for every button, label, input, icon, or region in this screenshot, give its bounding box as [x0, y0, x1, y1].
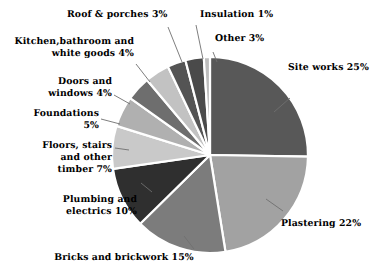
slice-label-plumbing-line1: Plumbing and — [0, 194, 137, 206]
slice-label-kitchen-line2: white goods 4% — [0, 48, 134, 60]
slice-label-foundations-line2: 5% — [0, 120, 99, 132]
pie-slices-group — [112, 57, 308, 253]
slice-label-site-works: Site works 25% — [288, 62, 369, 74]
slice-label-doors-line2: windows 4% — [0, 88, 112, 100]
slice-label-floors-line3: timber 7% — [0, 164, 112, 176]
slice-label-insulation: Insulation 1% — [200, 9, 273, 21]
slice-label-plastering: Plastering 22% — [281, 218, 361, 230]
leader-line-kitchen — [136, 64, 150, 82]
slice-label-doors-line1: Doors and — [0, 76, 112, 88]
slice-label-floors-line2: and other — [0, 152, 112, 164]
leader-line-insulation — [196, 25, 203, 59]
slice-label-bricks: Bricks and brickwork 15% — [34, 252, 214, 264]
pie-slice-plastering[interactable] — [210, 155, 308, 252]
leader-line-roof — [168, 27, 182, 62]
slice-label-roof: Roof & porches 3% — [67, 9, 167, 21]
leader-line-doors — [114, 95, 130, 104]
slice-label-kitchen-line1: Kitchen,bathroom and — [0, 36, 134, 48]
slice-label-plumbing-line2: electrics 10% — [0, 206, 137, 218]
slice-label-floors-line1: Floors, stairs — [0, 140, 112, 152]
pie-chart-figure: Site works 25% Plastering 22% Bricks and… — [0, 0, 392, 277]
slice-label-foundations-line1: Foundations — [0, 108, 99, 120]
slice-label-other: Other 3% — [215, 33, 264, 45]
